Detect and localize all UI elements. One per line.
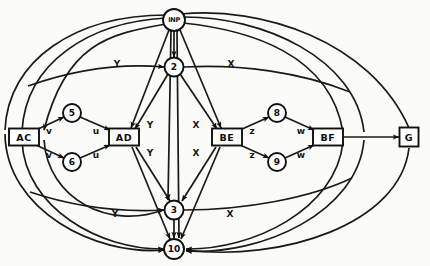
edge-label-u-bottom: u [93,150,99,160]
edge-label-z-top: z [249,126,254,136]
graph-svg: INP 2 5 6 8 9 3 [0,0,430,266]
node-8[interactable]: 8 [268,104,286,122]
lower-spokes-group [132,147,220,239]
curve-left-outer-to-node10 [5,134,164,251]
node-6[interactable]: 6 [63,153,81,171]
edge-inp-to-be [180,30,221,128]
node-ac[interactable]: AC [9,129,39,146]
edge-label-v-top: v [46,126,52,136]
node-bf-label: BF [321,132,336,143]
edge-label-x-mid-bottom: X [193,148,200,158]
diagram-canvas: INP 2 5 6 8 9 3 [0,0,430,266]
edge-label-w-top: w [297,126,305,136]
edge-label-u-top: u [93,126,99,136]
edge-inp-to-node3-left [168,31,171,200]
curve-g-to-node10-outer [186,148,409,252]
edge-label-y-mid-top: Y [146,120,154,130]
edge-label-y-mid-bottom: Y [146,148,154,158]
edge-labels-group: v u v u z w z w Y Y X X Y X Y X [46,59,305,219]
node-9-label: 9 [274,157,280,167]
edge-inp-to-ad [131,30,169,128]
node-6-label: 6 [69,157,75,167]
node-ad-label: AD [116,132,132,143]
node-10-label: 10 [168,244,181,254]
edge-label-x-lower: X [227,209,234,219]
edge-left-to-node2 [28,66,164,86]
node-be-label: BE [220,132,235,143]
node-bf[interactable]: BF [313,129,343,146]
edge-label-y-upper: Y [113,59,121,69]
node-8-label: 8 [274,108,280,118]
node-3-label: 3 [171,205,177,215]
edge-label-x-upper: X [228,59,235,69]
node-g[interactable]: G [400,128,419,147]
node-ad[interactable]: AD [109,129,139,146]
node-3[interactable]: 3 [165,201,184,220]
node-5[interactable]: 5 [63,104,81,122]
edge-label-w-bottom: w [297,150,305,160]
node-5-label: 5 [69,108,75,118]
edge-left-to-node3 [30,192,164,211]
curve-inp-to-right-outer [181,13,409,128]
node-2-label: 2 [171,62,177,72]
node-9[interactable]: 9 [268,153,286,171]
node-be[interactable]: BE [212,129,242,146]
curve-inp-left-outer [5,15,167,130]
edge-label-v-bottom: v [46,150,52,160]
edge-label-y-lower: Y [111,209,119,219]
edge-node3-to-right [184,178,352,210]
node-ac-label: AC [16,132,32,143]
node-inp-label: INP [168,16,180,24]
node-10[interactable]: 10 [164,239,184,259]
node-2[interactable]: 2 [165,58,184,77]
outer-curves-group [5,13,409,252]
node-inp[interactable]: INP [163,9,185,31]
node-g-label: G [405,132,413,143]
edge-label-z-bottom: z [249,150,254,160]
edge-label-x-mid-top: X [193,120,200,130]
